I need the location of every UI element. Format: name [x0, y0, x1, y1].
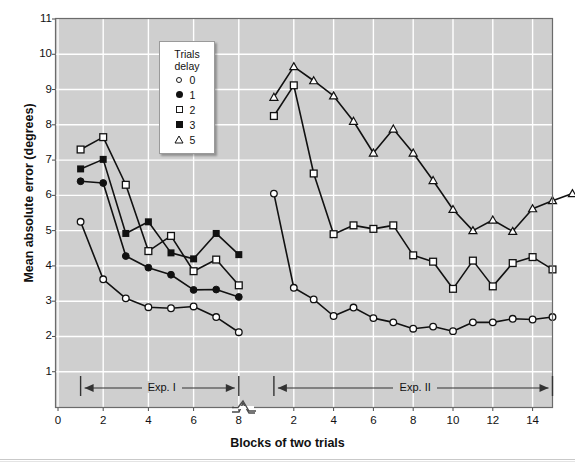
- y-tick-label: 2: [26, 330, 52, 342]
- filled-circle-icon: [174, 89, 185, 100]
- x-tick-label: 6: [360, 414, 386, 426]
- chart-canvas: [0, 0, 575, 463]
- open-square-icon: [174, 104, 185, 115]
- legend-item-2[interactable]: 2: [164, 102, 210, 117]
- x-tick-label: 14: [520, 414, 546, 426]
- legend-item-0[interactable]: 0: [164, 72, 210, 87]
- x-tick-label: 4: [321, 414, 347, 426]
- x-tick-label: 12: [480, 414, 506, 426]
- legend-item-1[interactable]: 1: [164, 87, 210, 102]
- open-circle-icon: [174, 74, 185, 85]
- legend-item-3[interactable]: 3: [164, 117, 210, 132]
- legend-title-line2: delay: [164, 60, 210, 72]
- x-tick-label: 2: [281, 414, 307, 426]
- x-tick-label: 2: [90, 414, 116, 426]
- x-tick-label: 0: [45, 414, 71, 426]
- legend-item-5[interactable]: 5: [164, 132, 210, 147]
- x-tick-label: 4: [135, 414, 161, 426]
- x-axis-label: Blocks of two trials: [0, 436, 575, 450]
- legend-item-label: 3: [190, 119, 201, 131]
- x-tick-label: 6: [181, 414, 207, 426]
- footer-rule-2: [0, 461, 575, 462]
- x-tick-label: 10: [440, 414, 466, 426]
- legend-entries: 01235: [164, 72, 210, 147]
- x-tick-label: 8: [400, 414, 426, 426]
- figure-container: 1110987654321 Mean absolute error (degre…: [0, 0, 575, 463]
- legend-item-label: 0: [190, 74, 201, 86]
- exp2-bracket-label: Exp. II: [393, 381, 437, 393]
- y-tick-label: 11: [26, 13, 52, 25]
- footer-rule: [0, 459, 575, 460]
- legend-item-label: 5: [190, 134, 201, 146]
- legend-item-label: 1: [190, 89, 201, 101]
- x-tick-label: 8: [226, 414, 252, 426]
- open-triangle-icon: [174, 134, 185, 145]
- y-tick-label: 1: [26, 366, 52, 378]
- y-tick-label: 10: [26, 48, 52, 60]
- legend: Trials delay 01235: [159, 41, 215, 154]
- legend-item-label: 2: [190, 104, 201, 116]
- legend-title-line1: Trials: [164, 48, 210, 60]
- exp1-bracket-label: Exp. I: [142, 381, 182, 393]
- filled-square-icon: [174, 119, 185, 130]
- y-axis-label: Mean absolute error (degrees): [22, 68, 36, 318]
